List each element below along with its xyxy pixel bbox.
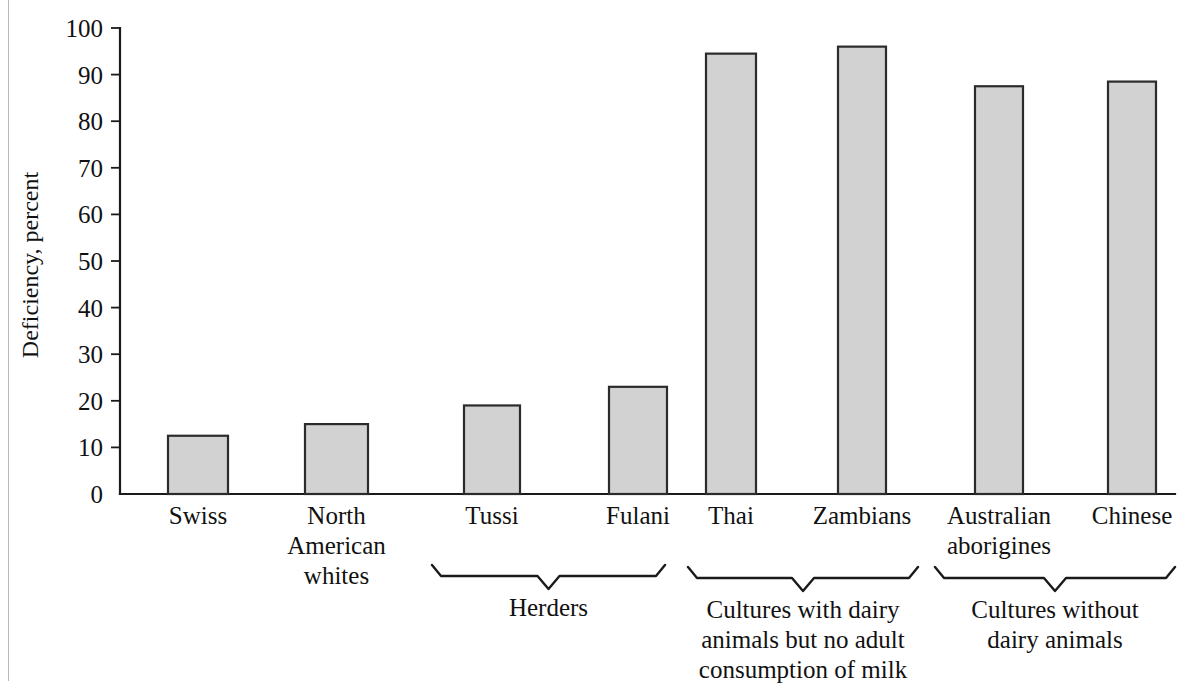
bar-category-label: American [287,532,386,559]
y-axis-tick-label: 60 [78,201,103,228]
bar-category-label: Thai [708,502,754,529]
y-axis-tick-label: 90 [78,62,103,89]
bar-category-label: Chinese [1092,502,1173,529]
bar-category-label: whites [304,562,369,589]
y-axis-tick-label: 100 [66,15,104,42]
y-axis-tick-label: 10 [78,434,103,461]
y-axis-tick-label: 70 [78,155,103,182]
y-axis-tick-label: 20 [78,388,103,415]
bar [168,436,228,494]
figure-page: 0102030405060708090100 SwissNorthAmerica… [0,0,1198,689]
group-bracket-label: consumption of milk [699,656,908,683]
bar-category-label: Australian [947,502,1052,529]
bar-category-label: North [307,502,366,529]
group-bracket [935,567,1175,591]
group-bracket-labels: HerdersCultures with dairyanimals but no… [509,594,1139,683]
y-axis-tick-label: 0 [91,481,104,508]
bar [609,387,667,494]
group-bracket-label: Cultures without [971,596,1138,623]
bar [1108,82,1156,494]
group-bracket-label: animals but no adult [701,626,904,653]
y-axis-tick-labels: 0102030405060708090100 [66,15,104,508]
bar-category-labels: SwissNorthAmericanwhitesTussiFulaniThaiZ… [169,502,1172,589]
bar [305,424,368,494]
bar-category-label: Fulani [606,502,670,529]
y-axis-tick-label: 40 [78,295,103,322]
group-bracket [688,567,918,591]
group-bracket-label: dairy animals [987,626,1122,653]
bar-category-label: Tussi [465,502,518,529]
bar [838,47,886,494]
y-axis-tick-label: 50 [78,248,103,275]
bar [975,86,1023,494]
group-bracket [432,565,665,589]
group-bracket-label: Cultures with dairy [706,596,900,623]
y-axis-ticks [111,28,120,447]
bar [464,405,520,494]
bar-series [168,47,1156,494]
y-axis-tick-label: 80 [78,108,103,135]
group-brackets [432,565,1175,591]
y-axis-title: Deficiency, percent [17,172,43,359]
bar-chart: 0102030405060708090100 SwissNorthAmerica… [0,0,1198,689]
bar-category-label: aborigines [947,532,1051,559]
y-axis-tick-label: 30 [78,341,103,368]
bar [706,54,756,494]
bar-category-label: Zambians [813,502,912,529]
bar-category-label: Swiss [169,502,227,529]
group-bracket-label: Herders [509,594,588,621]
